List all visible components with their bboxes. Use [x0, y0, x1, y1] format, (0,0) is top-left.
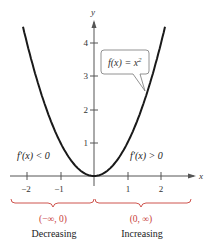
y-tick-label: 4 [84, 38, 89, 48]
x-tick-label: −2 [21, 184, 31, 194]
x-tick-label: −1 [54, 184, 64, 194]
x-axis-arrow-icon [188, 174, 196, 179]
left-brace [11, 199, 94, 207]
x-tick-label: 1 [126, 184, 131, 194]
x-tick-label: 2 [159, 184, 164, 194]
y-axis-arrow-icon [92, 20, 97, 28]
y-tick-label: 3 [84, 71, 89, 81]
y-tick-label: 1 [84, 138, 89, 148]
function-label: f(x) = x2 [108, 56, 142, 69]
y-tick-label: 2 [84, 105, 89, 115]
chart-canvas: y x −2 −1 1 2 1 2 3 4 f(x) = x2 f′(x) < [0, 0, 208, 246]
decreasing-label: Decreasing [32, 228, 77, 239]
right-derivative-label: f′(x) > 0 [130, 150, 163, 162]
left-interval-label: (−∞, 0) [39, 214, 67, 225]
increasing-label: Increasing [121, 228, 163, 239]
function-callout: f(x) = x2 [101, 50, 149, 91]
left-derivative-label: f′(x) < 0 [17, 150, 50, 162]
x-axis-label: x [198, 171, 203, 181]
right-interval-label: (0, ∞) [130, 214, 153, 225]
y-axis-label: y [90, 7, 95, 17]
right-brace [95, 199, 191, 207]
